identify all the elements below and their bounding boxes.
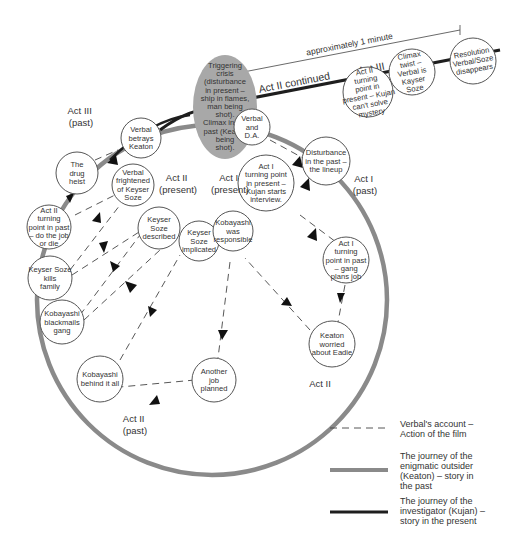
node-verbal-frightened: Verbalfrightenedof KeyserSoze bbox=[112, 164, 154, 206]
node-label: Thedrugheist bbox=[69, 160, 86, 186]
node-soze-kills-family: Keyser Sozekillsfamily bbox=[28, 256, 72, 300]
act2-present-label: Act II (present) bbox=[159, 172, 197, 195]
arrow-icon bbox=[307, 228, 317, 241]
node-verbal-betrays: VerbalbetraysKeaton bbox=[121, 118, 161, 158]
present-timeline-nodes: Act IIturningpoint inpresent – Kujancan'… bbox=[337, 38, 496, 122]
story-nodes: VerbalandD.A.Disturbancein the past –the… bbox=[27, 109, 369, 402]
legend: Verbal's account – Action of the film Th… bbox=[330, 419, 488, 526]
arrow-icon bbox=[281, 297, 292, 306]
arrow-icon bbox=[300, 178, 310, 191]
story-structure-diagram: approximately 1 minute Act II continued … bbox=[0, 0, 509, 558]
arrow-icon bbox=[148, 306, 157, 317]
arrow-icon bbox=[99, 241, 108, 253]
node-act2-turning-past: Act IIturningpoint in past– do the jobor… bbox=[27, 205, 71, 249]
node-disturbance-past: Disturbancein the past –the lineup bbox=[302, 137, 350, 185]
arrow-icon bbox=[337, 293, 345, 303]
node-kobayashi-blackmails: Kobayashiblackmailsgang bbox=[40, 300, 84, 344]
node-kobayashi-responsible: Kobayashiwasresponsible bbox=[213, 211, 253, 251]
act2-past-label: Act II (past) bbox=[123, 413, 147, 436]
node-keaton-worried: Keatonworriedabout Eadie bbox=[309, 321, 355, 367]
node-label: Kobayashibehind it all bbox=[81, 370, 120, 387]
legend-item-verbal-account: Verbal's account – Action of the film bbox=[400, 419, 476, 439]
arrow-icon bbox=[110, 261, 120, 272]
node-soze-described: KeyserSozedescribed bbox=[138, 207, 180, 249]
legend-item-investigator-journey: The journey of the investigator (Kujan) … bbox=[400, 496, 488, 526]
node-drug-heist: Thedrugheist bbox=[56, 152, 98, 194]
act2-label: Act II bbox=[309, 378, 331, 389]
act3-past-label: Act III (past) bbox=[68, 105, 95, 128]
node-climax-twist: Climaxtwist –Verbal isKayserSoze bbox=[389, 49, 435, 96]
duration-label: approximately 1 minute bbox=[305, 31, 393, 58]
arrow-icon bbox=[149, 395, 160, 405]
arrow-icon bbox=[125, 281, 137, 293]
node-act1-turning-present: Act Iturning pointin present –Kujan star… bbox=[238, 155, 294, 211]
legend-item-outsider-journey: The journey of the enigmatic outsider (K… bbox=[400, 451, 476, 491]
act1-past-label: Act I (past) bbox=[353, 173, 377, 196]
arrow-icon bbox=[92, 212, 101, 223]
arrow-icon bbox=[292, 156, 303, 168]
node-act1-turning-past: Act Iturningpoint in past– gangplans job bbox=[323, 237, 369, 283]
node-kobayashi-behind: Kobayashibehind it all bbox=[77, 356, 123, 402]
node-another-job: Anotherjobplanned bbox=[192, 358, 236, 402]
node-label: VerbalbetraysKeaton bbox=[129, 125, 154, 151]
node-verbal-da: VerbalandD.A. bbox=[234, 109, 270, 145]
node-resolution: ResolutionVerbal/Sozedisappears bbox=[450, 38, 496, 84]
arrow-icon bbox=[218, 330, 228, 340]
node-label: Disturbancein the past –the lineup bbox=[305, 148, 347, 174]
